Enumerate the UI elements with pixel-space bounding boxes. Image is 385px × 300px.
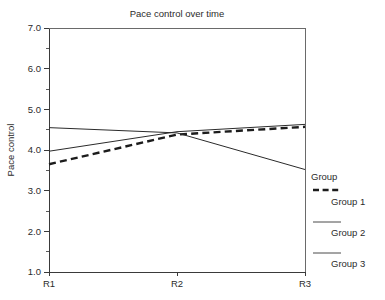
chart-figure: Pace control over time Pace control 1.02… <box>0 0 385 300</box>
x-tick-label: R3 <box>299 278 311 289</box>
x-tick-label: R2 <box>171 278 183 289</box>
legend-title: Group <box>311 171 337 182</box>
y-tick-label: 2.0 <box>28 226 41 237</box>
y-tick-label: 5.0 <box>28 104 41 115</box>
x-tick-label: R1 <box>43 278 55 289</box>
legend-label: Group 3 <box>331 258 365 269</box>
chart-legend: Group Group 1Group 2Group 3 <box>311 171 365 269</box>
line-chart: Pace control over time Pace control 1.02… <box>0 0 385 300</box>
plot-background <box>49 28 305 272</box>
legend-label: Group 1 <box>331 196 365 207</box>
x-tick-group: R1R2R3 <box>43 272 311 289</box>
chart-title: Pace control over time <box>130 8 225 19</box>
y-axis-label: Pace control <box>5 124 16 177</box>
y-tick-label: 1.0 <box>28 266 41 277</box>
y-tick-label: 4.0 <box>28 144 41 155</box>
y-tick-label: 6.0 <box>28 63 41 74</box>
y-tick-label: 7.0 <box>28 22 41 33</box>
legend-label: Group 2 <box>331 227 365 238</box>
y-tick-group: 1.02.03.04.05.06.07.0 <box>28 22 49 277</box>
y-tick-label: 3.0 <box>28 185 41 196</box>
